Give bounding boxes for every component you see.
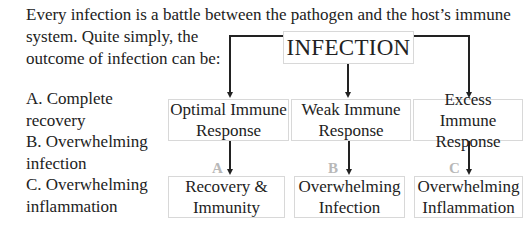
response-box-optimal: Optimal ImmuneResponse: [168, 99, 289, 141]
outcome-c-line-1: C. Overwhelming: [26, 174, 166, 196]
arrow-down-icon: [466, 169, 472, 175]
intro-line-3: outcome of infection can be:: [26, 48, 220, 70]
letter-c: C: [449, 160, 460, 177]
letter-a: A: [212, 160, 223, 177]
outcome-a-line-1: A. Complete: [26, 88, 166, 110]
result-inflammation-line-2: Inflammation: [418, 197, 520, 218]
infection-root-box: INFECTION: [283, 31, 414, 64]
intro-line-1: Every infection is a battle between the …: [26, 4, 511, 26]
result-infection-line-1: Overwhelming: [299, 176, 401, 197]
arrow-down-icon: [227, 169, 233, 175]
letter-b: B: [328, 160, 338, 177]
result-box-infection: OverwhelmingInfection: [294, 176, 405, 218]
result-inflammation-line-1: Overwhelming: [418, 176, 520, 197]
response-box-weak: Weak ImmuneResponse: [291, 99, 411, 141]
outcome-b-line-2: infection: [26, 153, 166, 175]
result-recovery-line-1: Recovery &: [185, 176, 268, 197]
outcome-a: A. Complete recovery: [26, 88, 166, 131]
outcome-a-line-2: recovery: [26, 110, 166, 132]
response-excess-line-1: Excess Immune: [414, 89, 522, 131]
response-optimal-line-1: Optimal Immune: [170, 99, 287, 120]
response-weak-line-1: Weak Immune: [301, 99, 400, 120]
infection-root-label: INFECTION: [286, 37, 410, 58]
outcome-list: A. Complete recovery B. Overwhelming inf…: [26, 88, 166, 217]
arrow-down-icon: [345, 92, 351, 98]
outcome-c-line-2: inflammation: [26, 196, 166, 218]
result-infection-line-2: Infection: [299, 197, 401, 218]
connector-center-vertical: [347, 63, 349, 93]
connector-right-horizontal: [414, 35, 470, 37]
result-recovery-line-2: Immunity: [185, 197, 268, 218]
connector-left-horizontal: [229, 35, 283, 37]
connector-a: [229, 141, 231, 170]
arrow-down-icon: [346, 169, 352, 175]
connector-right-vertical: [468, 35, 470, 93]
connector-left-vertical: [229, 35, 231, 93]
arrow-down-icon: [227, 92, 233, 98]
intro-paragraph: Every infection is a battle between the …: [26, 4, 511, 26]
outcome-b: B. Overwhelming infection: [26, 131, 166, 174]
response-optimal-line-2: Response: [170, 120, 287, 141]
response-weak-line-2: Response: [301, 120, 400, 141]
connector-b: [348, 141, 350, 170]
connector-c: [468, 141, 470, 170]
result-box-inflammation: OverwhelmingInflammation: [414, 176, 523, 218]
response-box-excess: Excess ImmuneResponse: [413, 99, 523, 141]
outcome-c: C. Overwhelming inflammation: [26, 174, 166, 217]
result-box-recovery: Recovery &Immunity: [168, 176, 285, 218]
outcome-b-line-1: B. Overwhelming: [26, 131, 166, 153]
intro-line-2: system. Quite simply, the: [26, 26, 198, 48]
